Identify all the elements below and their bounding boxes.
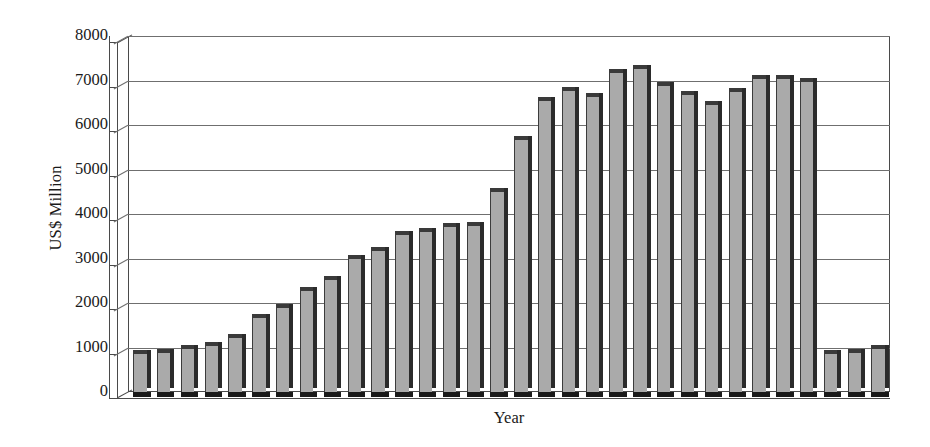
bar-base-shadow [467,392,484,397]
bar-base-shadow [252,392,269,397]
bar-face [467,226,480,392]
bar-depth-side [409,231,413,388]
bar-depth-corner [337,276,341,280]
bar-base-shadow [871,392,888,397]
y-tick-label: 5000 [42,161,108,178]
bar-depth-side [647,65,651,388]
bar-face [824,354,837,392]
bar-depth-side [623,69,627,389]
bar-depth-side [266,314,270,388]
bar [419,232,432,392]
bar [300,291,313,392]
bar-depth-top [681,91,694,95]
bar [586,97,599,392]
bar-depth-corner [242,334,246,338]
bar-depth-top [419,228,432,232]
bar-depth-side [456,223,460,388]
bar [228,338,241,392]
bar-depth-side [885,345,889,388]
bar-depth-top [467,222,480,226]
bar-base-shadow [586,392,603,397]
bar-base-shadow [729,392,746,397]
bar-depth-top [586,93,599,97]
bar-depth-corner [480,222,484,226]
x-axis-label: Year [128,408,890,428]
bar-depth-corner [885,345,889,349]
bar-depth-corner [266,314,270,318]
bar-depth-top [228,334,241,338]
bar [752,79,765,392]
bar-depth-side [599,93,603,388]
bar-depth-corner [456,223,460,227]
bar [395,235,408,392]
bar-base-shadow [609,392,626,397]
bar-depth-corner [528,136,532,140]
bar-chart-figure: US$ Million 8000700060005000400030002000… [0,0,930,447]
bar [538,101,551,392]
bar-depth-corner [313,287,317,291]
bar-depth-top [776,75,789,79]
bar [371,251,384,393]
bar-depth-side [813,78,817,388]
bar-base-shadow [752,392,769,397]
bar-depth-corner [147,350,151,354]
bar-depth-corner [432,228,436,232]
bar-depth-top [348,255,361,259]
bar-depth-corner [766,75,770,79]
bar-depth-side [480,222,484,388]
bar-depth-side [242,334,246,388]
bar-base-shadow [443,392,460,397]
bar-base-shadow [348,392,365,397]
bar-depth-side [718,101,722,388]
bar [467,226,480,392]
bar-face [181,349,194,392]
bar-base-shadow [824,392,841,397]
bar-depth-corner [837,350,841,354]
y-tick-label: 3000 [42,250,108,267]
bar-depth-top [395,231,408,235]
bar-base-shadow [324,392,341,397]
bar-depth-side [147,350,151,388]
bar-base-shadow [705,392,722,397]
bar [609,73,622,393]
bar [324,280,337,392]
bar-depth-side [861,349,865,388]
bar-depth-corner [575,87,579,91]
bar-face [848,353,861,392]
bar [252,318,265,392]
y-tick-label: 1000 [42,339,108,356]
bar-depth-side [670,82,674,388]
bar-depth-side [528,136,532,388]
bar-depth-corner [694,91,698,95]
y-tick-mark [109,398,117,399]
bar-depth-corner [170,349,174,353]
bar-depth-top [443,223,456,227]
bar-depth-top [490,188,503,192]
bar [181,349,194,392]
bar-depth-corner [385,247,389,251]
bar-depth-corner [551,97,555,101]
bar-depth-top [181,345,194,349]
bar-depth-corner [647,65,651,69]
y-tick-label: 0 [42,383,108,400]
bar [157,353,170,392]
bar [800,82,813,392]
bar-face [705,105,718,392]
y-tick-label: 6000 [42,116,108,133]
bar-base-shadow [776,392,793,397]
bar-depth-top [657,82,670,86]
bar-base-shadow [205,392,222,397]
plot-area [128,36,890,392]
bar-depth-top [729,88,742,92]
bar-base-shadow [633,392,650,397]
bar-depth-top [848,349,861,353]
bar-base-shadow [395,392,412,397]
bar-base-shadow [419,392,436,397]
bar-face [324,280,337,392]
bar-base-shadow [538,392,555,397]
bar [705,105,718,392]
bar [848,353,861,392]
bar-depth-corner [218,342,222,346]
bar [443,227,456,392]
bar-face [752,79,765,392]
